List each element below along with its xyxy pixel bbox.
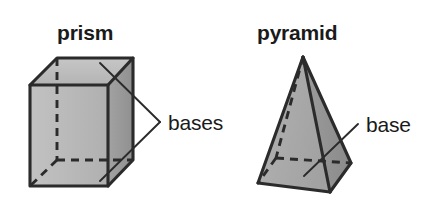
pyramid-title: pyramid	[257, 21, 337, 44]
prism-front-face	[30, 85, 108, 186]
diagram-canvas: prism pyramid bases base	[0, 0, 425, 204]
prism-bases-label: bases	[168, 111, 223, 134]
prism-title: prism	[57, 21, 113, 44]
rectangular-prism-icon	[30, 58, 133, 186]
geometry-diagram: prism pyramid bases base	[0, 0, 425, 204]
pyramid-base-label: base	[366, 113, 411, 136]
